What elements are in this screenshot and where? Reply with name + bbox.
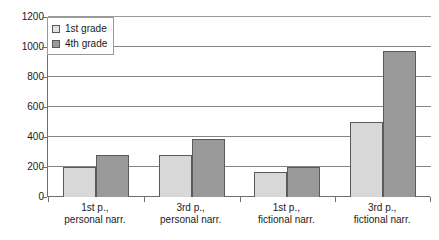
- legend-item-1st-grade[interactable]: 1st grade: [52, 21, 107, 36]
- legend-label-4th-grade: 4th grade: [65, 39, 107, 49]
- x-axis-label-2-line-1: 3rd p.,: [143, 202, 239, 214]
- y-axis-label-600: 600: [4, 102, 44, 112]
- bar-chart: 1200 1000 800 600 400 200 0: [0, 0, 439, 240]
- bar-1st-grade-1[interactable]: [63, 167, 96, 197]
- x-axis-label-3-line-2: fictional narr.: [239, 214, 335, 226]
- x-axis-label-1-line-1: 1st p.,: [47, 202, 143, 214]
- chart-legend: 1st grade 4th grade: [47, 17, 114, 55]
- y-axis-label-200: 200: [4, 162, 44, 172]
- y-axis-label-0: 0: [4, 192, 44, 202]
- bar-1st-grade-4[interactable]: [350, 122, 383, 197]
- x-axis-label-2-line-2: personal narr.: [143, 214, 239, 226]
- x-axis-label-3: 1st p., fictional narr.: [239, 202, 335, 226]
- y-axis-label-800: 800: [4, 72, 44, 82]
- legend-item-4th-grade[interactable]: 4th grade: [52, 36, 107, 51]
- x-axis-label-1-line-2: personal narr.: [47, 214, 143, 226]
- bar-4th-grade-1[interactable]: [96, 155, 129, 197]
- y-axis-tick-0: [42, 197, 47, 198]
- y-axis-label-400: 400: [4, 132, 44, 142]
- bar-group-3: [240, 17, 336, 197]
- legend-swatch-1st-grade-icon: [52, 25, 60, 33]
- x-axis-labels: 1st p., personal narr. 3rd p., personal …: [47, 202, 430, 226]
- bar-4th-grade-2[interactable]: [192, 139, 225, 198]
- x-axis-label-2: 3rd p., personal narr.: [143, 202, 239, 226]
- bar-4th-grade-3[interactable]: [287, 167, 320, 197]
- bar-4th-grade-4[interactable]: [383, 51, 416, 197]
- x-axis-label-3-line-1: 1st p.,: [239, 202, 335, 214]
- legend-label-1st-grade: 1st grade: [65, 24, 107, 34]
- bar-group-2: [144, 17, 240, 197]
- y-axis-label-1200: 1200: [4, 12, 44, 22]
- x-axis-label-4: 3rd p., fictional narr.: [334, 202, 430, 226]
- bar-group-4: [335, 17, 431, 197]
- legend-swatch-4th-grade-icon: [52, 40, 60, 48]
- y-axis-label-1000: 1000: [4, 42, 44, 52]
- x-axis-label-4-line-1: 3rd p.,: [334, 202, 430, 214]
- bar-1st-grade-2[interactable]: [159, 155, 192, 197]
- x-axis-label-4-line-2: fictional narr.: [334, 214, 430, 226]
- bar-1st-grade-3[interactable]: [254, 172, 287, 197]
- x-axis-label-1: 1st p., personal narr.: [47, 202, 143, 226]
- category-separator-4: [430, 197, 431, 202]
